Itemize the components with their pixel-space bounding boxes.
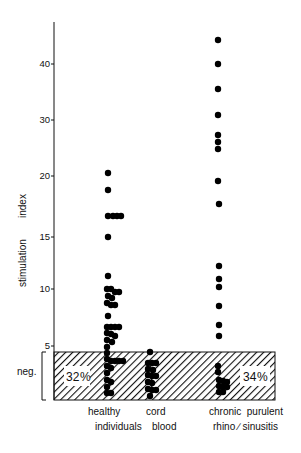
x-label-chronic-1: chronic purulent [209,406,283,417]
pct-chronic-value: 34 [243,370,257,384]
x-label-cord-2: blood [152,421,176,432]
series-chronic [215,37,230,395]
x-label-healthy-1: healthy [88,406,120,417]
x-label-cord-1: cord [146,406,165,417]
pct-healthy-value: 32 [66,370,80,384]
neg-label: neg. [17,366,36,377]
scatter-chart: 32 % 34 % 40 30 20 15 10 5 stimulation i… [0,0,301,453]
x-label-chronic-2: rhino ∕ sinusitis [213,421,278,432]
y-axis-label-stimulation: stimulation [17,239,28,287]
pct-healthy-sign: % [80,370,91,384]
pct-chronic-sign: % [257,370,268,384]
y-tick-30: 30 [39,114,50,125]
y-axis-label-index: index [17,194,28,218]
x-label-healthy-2: individuals [95,421,142,432]
y-tick-15: 15 [39,231,50,242]
neg-bracket [42,352,46,400]
y-tick-5: 5 [45,340,50,351]
y-tick-10: 10 [39,283,50,294]
y-tick-20: 20 [39,170,50,181]
y-tick-40: 40 [39,58,50,69]
